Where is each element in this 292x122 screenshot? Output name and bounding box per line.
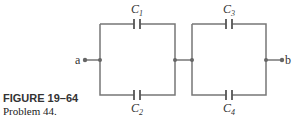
terminal-b-node — [280, 58, 284, 62]
c1-label: C1 — [131, 2, 143, 18]
c2-label: C2 — [131, 101, 143, 117]
c3-label: C3 — [223, 2, 235, 18]
terminal-a-node — [83, 58, 87, 62]
figure-caption: FIGURE 19–64 Problem 44. — [3, 92, 78, 118]
right-parallel-wires — [192, 24, 266, 95]
terminal-b-label: b — [285, 53, 291, 67]
c4-label: C4 — [223, 101, 235, 117]
terminal-a-label: a — [75, 53, 81, 67]
figure-label: FIGURE 19–64 — [3, 92, 78, 105]
left-parallel-wires — [100, 24, 175, 95]
problem-reference: Problem 44. — [3, 105, 78, 118]
